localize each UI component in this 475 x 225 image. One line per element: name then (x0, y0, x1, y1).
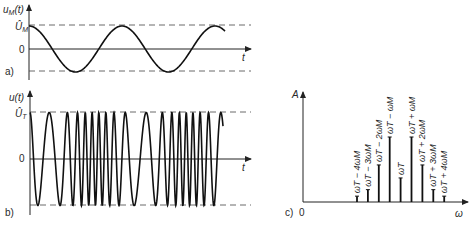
panel-b-zero-label: 0 (19, 153, 25, 164)
panel-c-origin-label: 0 (299, 207, 305, 218)
panel-b-tag: b) (5, 207, 14, 218)
panel-a-peak-label: ÛM (15, 20, 28, 33)
panel-c-x-label: ω (455, 208, 463, 219)
panel-a-modulating-signal: uM(t) ÛM 0 a) t (3, 4, 251, 80)
spectrum-line-label: ωT − 2ωM (374, 119, 384, 162)
panel-a-tag: a) (5, 66, 14, 77)
spectrum-line-label: ωT + ωM (407, 96, 417, 134)
spectrum-line-label: ωT − 4ωM (352, 150, 362, 193)
spectrum-lines: ωT − 4ωMωT − 3ωMωT − 2ωMωT − ωMωTωT + ωM… (352, 96, 449, 202)
panel-a-zero-label: 0 (19, 44, 25, 55)
spectrum-line-label: ωT + 4ωM (439, 150, 449, 193)
panel-a-x-label: t (242, 52, 246, 63)
panel-c-tag: c) (285, 207, 293, 218)
panel-a-y-label: uM(t) (3, 4, 24, 16)
spectrum-line-label: ωT + 2ωM (417, 119, 427, 162)
spectrum-line-label: ωT − 3ωM (363, 144, 373, 187)
panel-c-y-label: A (291, 89, 299, 100)
panel-b-peak-label: ÛT (15, 107, 27, 120)
panel-b-fm-signal: u(t) ÛT 0 b) t (5, 91, 251, 218)
panel-c-spectrum: ωT − 4ωMωT − 3ωMωT − 2ωMωT − ωMωTωT + ωM… (285, 89, 468, 219)
spectrum-line-label: ωT (396, 161, 406, 175)
spectrum-line-label: ωT − ωM (385, 96, 395, 134)
spectrum-line-label: ωT + 3ωM (428, 144, 438, 187)
panel-b-y-label: u(t) (9, 92, 24, 103)
fm-diagram: uM(t) ÛM 0 a) t u(t) ÛT 0 b) t ωT − 4ωMω… (0, 0, 475, 225)
panel-b-x-label: t (242, 162, 246, 173)
